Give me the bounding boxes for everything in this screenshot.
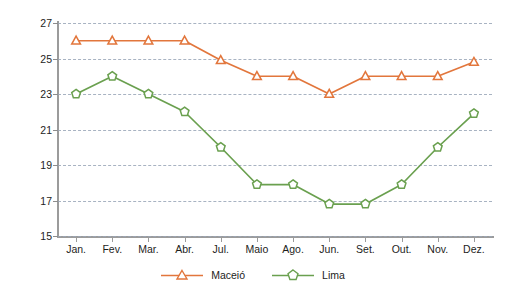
x-tick-label: Mar. [138, 243, 158, 255]
legend-item-lima[interactable]: Lima [271, 268, 345, 282]
gridline [58, 130, 492, 131]
x-tick-mark [474, 238, 475, 242]
x-tick-mark [257, 238, 258, 242]
y-tick-mark [53, 165, 58, 166]
legend-item-maceio[interactable]: Maceió [160, 268, 245, 282]
x-tick-label: Fev. [102, 243, 122, 255]
y-tick-label: 25 [28, 53, 52, 65]
x-tick-mark [365, 238, 366, 242]
y-tick-label: 23 [28, 88, 52, 100]
gridline [58, 94, 492, 95]
y-tick-label: 21 [28, 124, 52, 136]
legend-marker-pentagon-icon [271, 268, 315, 282]
legend-marker-triangle-icon [160, 268, 204, 282]
plot-area [58, 23, 492, 236]
x-tick-label: Nov. [427, 243, 448, 255]
gridline [58, 23, 492, 24]
x-tick-label: Jul. [213, 243, 229, 255]
gridline [58, 59, 492, 60]
x-tick-mark [148, 238, 149, 242]
legend-label-maceio: Maceió [211, 269, 245, 281]
gridline [58, 236, 492, 237]
x-tick-mark [402, 238, 403, 242]
x-tick-label: Jan. [66, 243, 86, 255]
x-tick-label: Out. [392, 243, 412, 255]
y-tick-label: 17 [28, 195, 52, 207]
y-tick-mark [53, 23, 58, 24]
x-tick-mark [185, 238, 186, 242]
x-tick-mark [76, 238, 77, 242]
y-tick-mark [53, 94, 58, 95]
temperature-line-chart: Temperatura (°C) Maceió Lima 15171921232… [0, 0, 505, 299]
legend-label-lima: Lima [322, 269, 345, 281]
y-tick-mark [53, 130, 58, 131]
x-tick-label: Set. [356, 243, 375, 255]
y-tick-mark [53, 201, 58, 202]
gridline [58, 201, 492, 202]
x-tick-mark [293, 238, 294, 242]
gridline [58, 165, 492, 166]
x-tick-label: Maio [246, 243, 269, 255]
y-tick-label: 27 [28, 17, 52, 29]
x-tick-mark [112, 238, 113, 242]
y-tick-label: 15 [28, 230, 52, 242]
x-tick-mark [438, 238, 439, 242]
x-tick-label: Ago. [282, 243, 304, 255]
y-tick-label: 19 [28, 159, 52, 171]
y-tick-mark [53, 236, 58, 237]
y-tick-mark [53, 59, 58, 60]
chart-legend: Maceió Lima [0, 268, 505, 282]
x-tick-label: Dez. [463, 243, 485, 255]
x-tick-label: Abr. [175, 243, 194, 255]
x-tick-label: Jun. [319, 243, 339, 255]
x-tick-mark [329, 238, 330, 242]
x-tick-mark [221, 238, 222, 242]
